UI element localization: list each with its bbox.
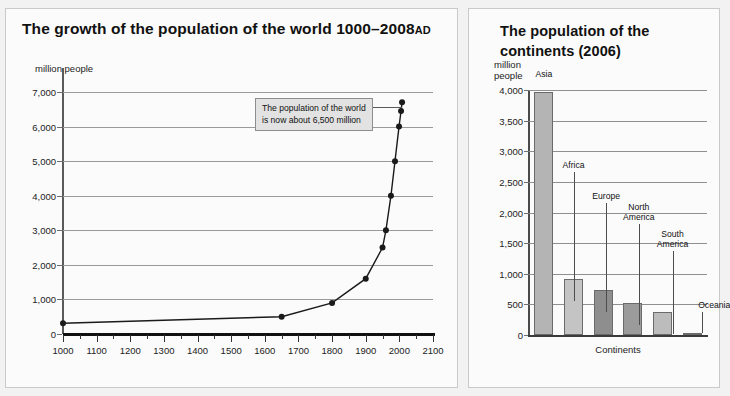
left-y-tick	[57, 230, 62, 231]
data-point	[398, 108, 404, 114]
left-x-tick-major	[298, 335, 299, 342]
right-y-tick	[524, 274, 529, 275]
callout-line-1: The population of the world	[262, 103, 366, 115]
bar-label-leader-line	[606, 203, 607, 312]
left-x-tick-label: 1500	[221, 345, 242, 356]
bar-label-line: Africa	[563, 161, 585, 171]
left-chart-title-text: The growth of the population of the worl…	[22, 20, 415, 37]
right-y-tick-label: 0	[518, 330, 523, 341]
right-x-axis-title: Continents	[529, 344, 707, 355]
data-point	[279, 314, 285, 320]
left-x-tick-major	[164, 335, 165, 342]
right-y-unit-line-2: people	[494, 71, 538, 82]
left-y-tick-label: 4,000	[32, 190, 56, 201]
right-y-tick-label: 500	[507, 299, 523, 310]
left-x-tick-major	[198, 335, 199, 342]
bar-label-north-america: NorthAmerica	[623, 203, 655, 223]
left-x-tick-label: 2100	[422, 345, 443, 356]
bar-label-africa: Africa	[563, 161, 585, 171]
right-gridline	[529, 182, 707, 183]
data-point	[383, 227, 389, 233]
left-x-axis-line: 1000110012001300140015001600170018001900…	[63, 333, 435, 336]
right-y-axis-unit-label: million people	[494, 60, 538, 82]
left-x-tick-label: 1700	[288, 345, 309, 356]
left-x-tick-label: 1300	[153, 345, 174, 356]
left-x-tick-major	[399, 335, 400, 342]
right-gridline	[529, 90, 707, 91]
left-x-tick-minor	[315, 335, 316, 339]
left-y-tick	[57, 299, 62, 300]
left-y-tick-label: 0	[51, 329, 56, 340]
left-y-tick	[57, 161, 62, 162]
right-y-tick-label: 1,500	[499, 238, 523, 249]
bar-label-leader-line	[673, 251, 674, 334]
callout-line-2: is now about 6,500 million	[262, 115, 366, 127]
left-x-tick-major	[265, 335, 266, 342]
left-x-tick-major	[366, 335, 367, 342]
left-y-tick-label: 1,000	[32, 294, 56, 305]
left-x-tick-minor	[113, 335, 114, 339]
right-x-axis-line	[528, 335, 708, 337]
world-population-line	[63, 92, 433, 334]
left-x-tick-minor	[248, 335, 249, 339]
left-chart-title: The growth of the population of the worl…	[22, 20, 431, 38]
left-x-tick-major	[332, 335, 333, 342]
right-gridline	[529, 151, 707, 152]
bar-label-leader-line	[574, 172, 575, 301]
right-gridline	[529, 121, 707, 122]
bar-label-line: America	[623, 213, 655, 223]
right-y-tick	[524, 121, 529, 122]
left-x-tick-label: 1000	[52, 345, 73, 356]
right-y-tick	[524, 90, 529, 91]
bar-label-leader-line	[639, 224, 640, 325]
data-point	[329, 300, 335, 306]
left-y-axis-unit-label: million people	[35, 64, 93, 75]
left-y-tick	[57, 92, 62, 93]
right-y-tick-label: 2,500	[499, 176, 523, 187]
left-x-tick-minor	[181, 335, 182, 339]
left-x-tick-minor	[383, 335, 384, 339]
left-x-tick-minor	[349, 335, 350, 339]
data-point	[380, 245, 386, 251]
right-y-tick-label: 3,000	[499, 146, 523, 157]
data-point	[388, 193, 394, 199]
bar-label-line: Asia	[535, 70, 552, 80]
bar-label-south-america: SouthAmerica	[657, 230, 689, 250]
data-point	[399, 99, 405, 105]
bar-label-line: Europe	[592, 192, 620, 202]
left-y-tick	[57, 196, 62, 197]
left-x-tick-major	[63, 335, 64, 342]
callout-leader-line	[373, 107, 402, 108]
right-y-tick	[524, 304, 529, 305]
left-y-tick	[57, 265, 62, 266]
right-gridline	[529, 274, 707, 275]
bar-south-america[interactable]	[653, 312, 672, 335]
bar-europe[interactable]	[594, 290, 613, 335]
data-point	[396, 124, 402, 130]
bar-label-leader-line	[702, 312, 703, 333]
bar-label-oceania: Oceania	[698, 301, 730, 311]
bar-label-line: Oceania	[698, 301, 730, 311]
left-y-tick	[57, 334, 62, 335]
bar-asia[interactable]	[534, 92, 553, 335]
right-y-tick	[524, 213, 529, 214]
left-x-tick-major	[97, 335, 98, 342]
right-y-tick-label: 3,500	[499, 115, 523, 126]
bar-label-asia: Asia	[535, 70, 552, 80]
right-y-tick	[524, 182, 529, 183]
left-chart-title-era: AD	[415, 24, 431, 36]
population-callout: The population of the world is now about…	[255, 98, 373, 131]
left-x-tick-label: 1800	[322, 345, 343, 356]
right-y-tick-label: 4,000	[499, 85, 523, 96]
left-y-tick-label: 3,000	[32, 225, 56, 236]
left-x-tick-label: 1900	[355, 345, 376, 356]
left-y-tick-label: 2,000	[32, 259, 56, 270]
left-x-tick-minor	[214, 335, 215, 339]
right-gridline	[529, 213, 707, 214]
right-y-tick-label: 2,000	[499, 207, 523, 218]
left-x-tick-major	[433, 335, 434, 342]
left-x-tick-label: 1200	[120, 345, 141, 356]
bar-label-line: America	[657, 240, 689, 250]
left-x-tick-minor	[416, 335, 417, 339]
